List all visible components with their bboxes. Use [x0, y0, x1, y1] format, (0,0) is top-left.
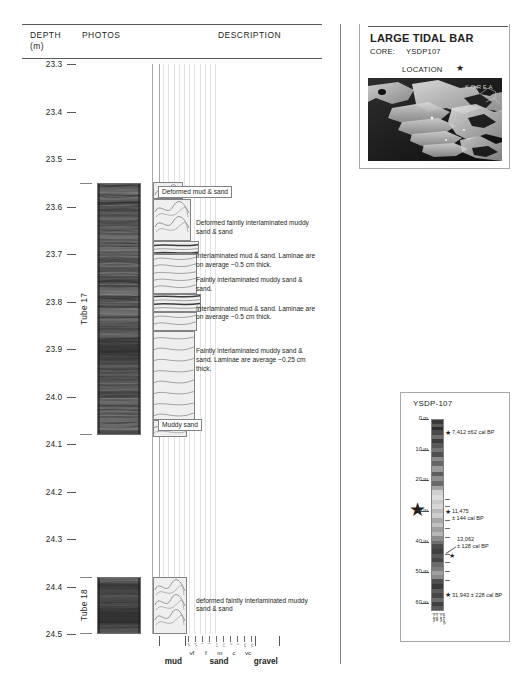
grain-size-sub-label: vc — [242, 643, 247, 647]
core-tube: Tube 17 — [78, 183, 146, 435]
ysdp-depth-label: 50 m — [416, 568, 428, 574]
depth-tick: 24.0 — [22, 392, 78, 402]
grain-size-sub-label: c — [235, 643, 240, 645]
depth-tick: 24.2 — [22, 487, 78, 497]
grain-size-sub-tick — [244, 636, 245, 642]
depth-tick: 24.1 — [22, 439, 78, 449]
grain-size-sub-tick — [237, 636, 238, 642]
core-id-value: YSDP107 — [406, 47, 441, 56]
ysdp-minor-tick — [445, 562, 450, 563]
core-photograph — [97, 183, 141, 435]
tube-bracket-bottom — [80, 633, 92, 634]
grain-size-group-label: sand — [197, 657, 241, 666]
ysdp-date-label: 13,062± 128 cal BP — [457, 536, 489, 550]
ysdp-minor-tick — [445, 506, 450, 507]
location-label: LOCATION — [402, 65, 443, 74]
depth-tick-mark — [67, 112, 76, 113]
column-header-depth-unit: (m) — [30, 41, 44, 51]
depth-tick-mark — [67, 207, 76, 208]
grain-size-sub-label: vf — [193, 643, 198, 646]
grain-size-group-label: gravel — [244, 657, 288, 666]
ysdp-minor-tick — [445, 580, 450, 581]
ysdp-date-marker-icon: ★ — [445, 591, 451, 598]
depth-tick-label: 23.8 — [46, 297, 62, 307]
grain-size-group-label: mud — [151, 657, 195, 666]
ysdp-footer-label: gravel — [441, 613, 446, 624]
core-photo-column: Tube 17Tube 18 — [78, 64, 146, 634]
description-text: deformed faintly interlaminated muddy sa… — [196, 597, 320, 614]
depth-tick: 24.3 — [22, 534, 78, 544]
ysdp-minor-tick — [445, 499, 450, 500]
ysdp-date-marker-icon: ★ — [449, 552, 455, 559]
ysdp-depth-label: 0 m — [419, 415, 428, 421]
grain-size-sub-label: f — [200, 643, 205, 644]
depth-tick-mark — [67, 64, 76, 65]
depth-tick: 24.4 — [22, 582, 78, 592]
depth-tick-label: 23.5 — [46, 154, 62, 164]
core-tube: Tube 18 — [78, 577, 146, 634]
depth-tick: 23.5 — [22, 154, 78, 164]
depth-tick-label: 24.2 — [46, 487, 62, 497]
grain-size-major-tick — [159, 636, 160, 646]
header-rule-top — [22, 24, 322, 25]
ysdp-core-column — [431, 419, 444, 611]
grain-size-sub-label: vc — [249, 643, 254, 647]
ysdp-date-label: 31,943 ± 228 cal BP — [452, 592, 502, 599]
depth-tick-label: 24.4 — [46, 582, 62, 592]
depth-axis: 23.323.423.523.623.723.823.924.024.124.2… — [22, 64, 78, 634]
ysdp-depth-label: 60 m — [416, 599, 428, 605]
description-text: Deformed faintly interlaminated muddy sa… — [196, 219, 320, 236]
ysdp-depth-label: 20 m — [416, 476, 428, 482]
stratigraphic-log-panel: DEPTH (m) PHOTOS DESCRIPTION 23.323.423.… — [22, 24, 322, 664]
depth-tick: 23.8 — [22, 297, 78, 307]
depth-tick-label: 23.3 — [46, 59, 62, 69]
description-text: Deformed mud & sand — [158, 186, 232, 199]
tube-label: Tube 17 — [76, 183, 92, 435]
core-label: CORE: — [370, 47, 395, 56]
ysdp-depth-label: 10 m — [416, 446, 428, 452]
ysdp-core-panel: YSDP-107 ★ 0 m10 m20 m30 m40 m50 m60 m★7… — [400, 392, 510, 642]
depth-tick-mark — [67, 634, 76, 635]
grain-size-class-label: vc — [240, 649, 256, 656]
core-log-figure: DEPTH (m) PHOTOS DESCRIPTION 23.323.423.… — [0, 0, 526, 677]
depth-tick: 23.4 — [22, 107, 78, 117]
ysdp-minor-tick — [445, 520, 450, 521]
depth-tick-label: 24.5 — [46, 629, 62, 639]
grain-size-sub-label: m — [221, 643, 226, 647]
depth-tick-label: 23.9 — [46, 344, 62, 354]
grain-size-sub-label: f — [207, 643, 212, 644]
depth-tick-mark — [67, 397, 76, 398]
ysdp-date-label: 11,475± 144 cal BP — [452, 508, 484, 522]
ysdp-minor-tick — [445, 571, 450, 572]
tube-label: Tube 18 — [76, 577, 92, 634]
grain-size-sub-tick — [188, 636, 189, 642]
ysdp-date-label: 7,412 ±62 cal BP — [452, 429, 495, 436]
depth-tick-mark — [67, 159, 76, 160]
tube-bracket-bottom — [80, 434, 92, 435]
column-header-photos: PHOTOS — [82, 30, 120, 40]
title-rule — [368, 26, 508, 27]
depth-tick: 23.6 — [22, 202, 78, 212]
column-header-description: DESCRIPTION — [218, 30, 281, 40]
description-text: Faintly interlaminated muddy sand & sand… — [196, 276, 320, 293]
depth-tick-mark — [67, 539, 76, 540]
description-column: Deformed mud & sandDeformed faintly inte… — [190, 64, 322, 634]
depth-tick: 24.5 — [22, 629, 78, 639]
satellite-map-image: KOREA — [368, 78, 502, 161]
column-header-depth: DEPTH — [30, 30, 61, 40]
depth-tick-label: 23.6 — [46, 202, 62, 212]
depth-tick-label: 24.0 — [46, 392, 62, 402]
ysdp-core-title: YSDP-107 — [413, 399, 452, 408]
map-svg — [368, 78, 502, 161]
depth-tick-mark — [67, 492, 76, 493]
lithology-unit — [153, 577, 187, 634]
grain-size-sub-tick — [209, 636, 210, 642]
depth-tick: 23.9 — [22, 344, 78, 354]
description-text: Faintly interlaminated muddy sand & sand… — [196, 347, 320, 373]
grain-size-sub-tick — [216, 636, 217, 642]
figure-title: LARGE TIDAL BAR — [370, 32, 474, 44]
ysdp-date-marker-icon: ★ — [445, 508, 451, 515]
grain-size-sub-label: vf — [186, 643, 191, 646]
grain-size-sub-tick — [230, 636, 231, 642]
ysdp-minor-tick — [445, 528, 450, 529]
